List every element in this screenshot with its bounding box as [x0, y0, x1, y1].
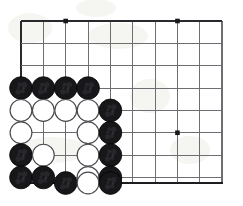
- stone-black-speckle: [15, 179, 20, 184]
- stone-black-body: [10, 144, 33, 167]
- paper-blotch-0: [8, 13, 52, 43]
- stone-black-speckle: [111, 127, 116, 132]
- star-center-right: [175, 130, 180, 135]
- stone-black-speckle: [22, 171, 27, 176]
- stone-black-speckle: [111, 149, 116, 154]
- stone-black-speckle: [111, 110, 114, 113]
- stone-black-speckle: [62, 82, 66, 86]
- stone-black-body: [10, 166, 33, 189]
- stone-black-body: [99, 121, 122, 144]
- stone-black-speckle: [38, 89, 43, 94]
- stone-black-speckle: [38, 179, 43, 184]
- stone-black-speckle: [22, 177, 25, 180]
- stone-white-body: [10, 122, 32, 144]
- stone-white-c1-r5: [10, 100, 32, 122]
- stone-black-speckle: [44, 87, 47, 90]
- stone-black-speckle: [111, 154, 114, 157]
- stone-black-speckle: [111, 104, 116, 109]
- stone-white-body: [77, 144, 99, 166]
- stone-white-c4-r5: [77, 100, 99, 122]
- stone-white-body: [32, 144, 54, 166]
- stone-black-speckle: [22, 82, 27, 87]
- stone-white-body: [77, 122, 99, 144]
- stone-black-speckle: [105, 156, 110, 161]
- go-board-canvas: [0, 0, 243, 206]
- stone-black-speckle: [22, 87, 25, 90]
- stone-black-body: [99, 99, 122, 122]
- stone-black-speckle: [44, 82, 49, 87]
- stone-black-speckle: [15, 89, 20, 94]
- stone-white-body: [10, 100, 32, 122]
- go-board-figure: [0, 0, 243, 206]
- paper-blotch-1: [88, 23, 148, 49]
- stone-black-body: [54, 172, 77, 195]
- stone-black-c5-r9: [99, 172, 122, 195]
- stone-black-c1-r8: [10, 166, 33, 189]
- stone-white-body: [32, 100, 54, 122]
- stone-black-speckle: [67, 182, 70, 185]
- stone-black-speckle: [67, 87, 70, 90]
- stone-black-c1-r7: [10, 144, 33, 167]
- stone-white-c2-r5: [32, 100, 54, 122]
- stone-black-body: [32, 77, 55, 100]
- stone-black-speckle: [105, 112, 110, 117]
- stone-black-body: [77, 77, 100, 100]
- stone-black-speckle: [22, 149, 27, 154]
- stone-black-speckle: [83, 89, 88, 94]
- stone-black-speckle: [18, 150, 22, 154]
- stone-black-speckle: [22, 154, 25, 157]
- stone-white-c3-r5: [55, 100, 77, 122]
- stone-white-c2-r7: [32, 144, 54, 166]
- stone-white-c1-r6: [10, 122, 32, 144]
- stone-white-body: [77, 172, 99, 194]
- stone-black-speckle: [66, 82, 71, 87]
- stone-black-speckle: [18, 82, 22, 86]
- stone-black-c5-r6: [99, 121, 122, 144]
- stone-white-c4-r9: [77, 172, 99, 194]
- stone-white-body: [55, 100, 77, 122]
- stone-black-speckle: [107, 105, 111, 109]
- stone-black-speckle: [105, 134, 110, 139]
- stone-black-speckle: [60, 184, 65, 189]
- stone-white-c4-r7: [77, 144, 99, 166]
- stone-black-speckle: [111, 177, 116, 182]
- stone-black-c5-r5: [99, 99, 122, 122]
- paper-blotch-2: [130, 79, 170, 113]
- stone-black-speckle: [62, 177, 66, 181]
- stone-black-body: [10, 77, 33, 100]
- stone-black-c5-r7: [99, 144, 122, 167]
- stone-black-speckle: [105, 184, 110, 189]
- stone-black-c2-r8: [32, 166, 55, 189]
- stone-black-speckle: [89, 87, 92, 90]
- star-top-left: [63, 19, 68, 24]
- stone-black-speckle: [85, 82, 89, 86]
- stone-black-c3-r9: [54, 172, 77, 195]
- stone-black-c2-r4: [32, 77, 55, 100]
- stone-black-speckle: [107, 177, 111, 181]
- stone-white-body: [77, 100, 99, 122]
- stone-black-c3-r4: [54, 77, 77, 100]
- stone-black-c1-r4: [10, 77, 33, 100]
- stone-black-speckle: [40, 172, 44, 176]
- stone-black-speckle: [40, 82, 44, 86]
- stone-black-c4-r4: [77, 77, 100, 100]
- stone-black-speckle: [89, 82, 94, 87]
- stone-black-speckle: [15, 156, 20, 161]
- stone-black-body: [99, 144, 122, 167]
- stone-black-speckle: [107, 127, 111, 131]
- stone-black-speckle: [44, 177, 47, 180]
- stone-black-body: [99, 172, 122, 195]
- stone-white-c4-r6: [77, 122, 99, 144]
- star-top-right: [175, 19, 180, 24]
- stone-black-speckle: [66, 177, 71, 182]
- stone-black-speckle: [111, 182, 114, 185]
- stone-black-body: [54, 77, 77, 100]
- stone-black-speckle: [107, 150, 111, 154]
- stone-black-speckle: [18, 172, 22, 176]
- stone-black-speckle: [44, 171, 49, 176]
- paper-blotch-4: [170, 136, 210, 164]
- stone-black-speckle: [111, 132, 114, 135]
- stone-black-speckle: [60, 89, 65, 94]
- stone-black-body: [32, 166, 55, 189]
